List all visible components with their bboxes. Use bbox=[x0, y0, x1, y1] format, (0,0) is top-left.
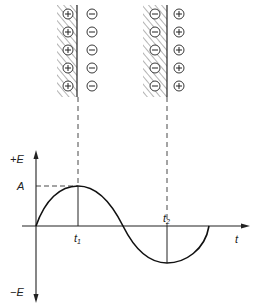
left-plate bbox=[57, 5, 97, 97]
left-plate-negative-charges bbox=[87, 9, 97, 91]
right-plate bbox=[143, 5, 184, 97]
right-plate-positive-charges bbox=[174, 9, 184, 91]
field-strength-curve bbox=[36, 186, 209, 263]
y-positive-label: +E bbox=[10, 153, 24, 165]
t1-label: t1 bbox=[74, 232, 81, 245]
x-axis-label: t bbox=[235, 233, 239, 245]
x-axis bbox=[22, 224, 250, 229]
field-oscillation-diagram: +E −E A t t1 t2 bbox=[0, 0, 257, 308]
y-negative-label: −E bbox=[10, 286, 24, 298]
amplitude-label: A bbox=[16, 180, 24, 192]
t2-label: t2 bbox=[163, 212, 170, 225]
